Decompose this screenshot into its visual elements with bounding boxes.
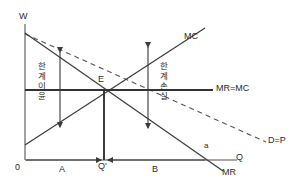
optimum-quantity-label: Q'	[98, 162, 107, 171]
x-axis-label: Q	[236, 153, 243, 162]
marginal-profit-char-3: 이	[36, 81, 47, 91]
mr-curve-label: MR	[222, 168, 236, 177]
marginal-loss-char-3: 손	[158, 81, 169, 91]
y-axis-label: W	[19, 12, 28, 21]
marginal-profit-char-1: 한	[36, 61, 47, 71]
marginal-loss-char-4: 실	[158, 91, 169, 101]
diagram-canvas: W Q 0 MC MR D=P MR=MC E a Q' 한 계 이 윤 한 계…	[0, 0, 299, 192]
marginal-profit-label: 한 계 이 윤	[36, 61, 47, 101]
marginal-loss-char-2: 계	[158, 71, 169, 81]
marginal-profit-char-4: 윤	[36, 91, 47, 101]
marginal-profit-char-2: 계	[36, 71, 47, 81]
origin-label: 0	[15, 163, 20, 172]
mr-curve	[25, 33, 223, 171]
mc-curve-label: MC	[184, 32, 198, 41]
marginal-loss-char-1: 한	[158, 61, 169, 71]
span-b-label: B	[152, 165, 158, 174]
demand-curve-label: D=P	[268, 136, 286, 145]
point-a-label: a	[204, 142, 208, 150]
span-a-label: A	[59, 165, 65, 174]
marginal-loss-label: 한 계 손 실	[158, 61, 169, 101]
equilibrium-point-label: E	[98, 75, 104, 84]
mr-equals-mc-label: MR=MC	[216, 84, 249, 93]
